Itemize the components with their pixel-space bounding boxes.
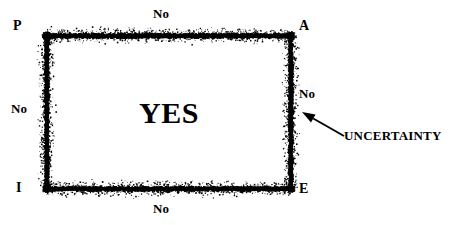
region-label-no-left: No <box>11 102 27 115</box>
corner-label-a: A <box>299 19 309 33</box>
uncertainty-caption: UNCERTAINTY <box>344 129 442 142</box>
region-label-no-top: No <box>153 7 169 20</box>
region-label-yes: YES <box>139 98 199 128</box>
corner-label-p: P <box>13 19 22 33</box>
uncertainty-arrow-icon <box>0 0 469 225</box>
corner-label-i: I <box>16 181 21 195</box>
uncertainty-diagram: P A I E No No No No YES UNCERTAINTY <box>0 0 469 225</box>
corner-label-e: E <box>299 182 308 196</box>
region-label-no-bottom: No <box>153 202 169 215</box>
region-label-no-right: No <box>299 87 315 100</box>
